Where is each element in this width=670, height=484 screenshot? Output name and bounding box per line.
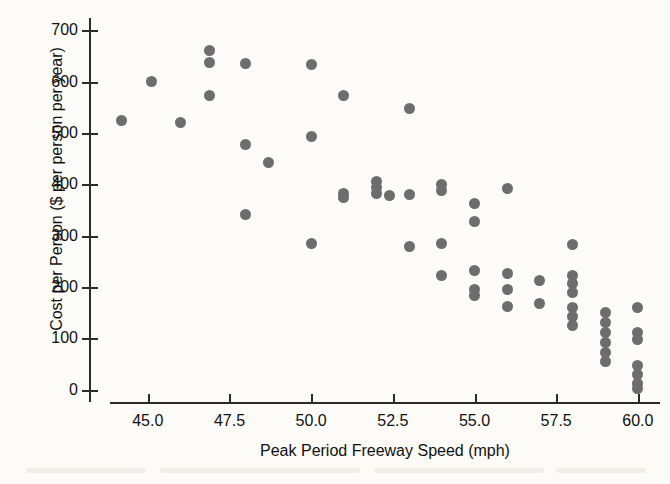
y-axis-title: Cost per Person ($ per person per year) (48, 19, 66, 359)
x-axis-tick-label: 60.0 (608, 412, 668, 430)
data-point (502, 183, 513, 194)
data-point (632, 302, 643, 313)
data-point (306, 238, 317, 249)
scan-artifact (374, 468, 544, 473)
data-point (469, 216, 480, 227)
y-axis-tick-label: 0 (24, 382, 78, 398)
data-point (567, 287, 578, 298)
data-point (306, 59, 317, 70)
data-point (404, 103, 415, 114)
data-point (404, 241, 415, 252)
data-point (204, 45, 215, 56)
data-point (384, 190, 395, 201)
data-point (567, 320, 578, 331)
x-axis-tick-label: 47.5 (199, 412, 259, 430)
data-point (204, 90, 215, 101)
data-point (175, 117, 186, 128)
x-axis-title: Peak Period Freeway Speed (mph) (110, 442, 660, 460)
data-point (338, 90, 349, 101)
data-point (404, 189, 415, 200)
x-axis-tick-label: 45.0 (118, 412, 178, 430)
data-point (502, 301, 513, 312)
scan-artifact (26, 468, 146, 473)
scatter-plot-figure: 0100200300400500600700 45.047.550.052.55… (0, 0, 670, 484)
scan-artifact (160, 468, 360, 473)
data-point (240, 139, 251, 150)
data-point (502, 268, 513, 279)
x-axis-tick-label: 50.0 (281, 412, 341, 430)
data-point (534, 298, 545, 309)
data-point (116, 115, 127, 126)
data-point (632, 334, 643, 345)
x-axis-line (110, 402, 660, 404)
data-point (240, 58, 251, 69)
data-point (338, 192, 349, 203)
data-point (204, 57, 215, 68)
data-point (502, 284, 513, 295)
scan-artifact (556, 468, 646, 473)
data-point (534, 275, 545, 286)
data-point (567, 239, 578, 250)
x-axis-tick-label: 55.0 (445, 412, 505, 430)
data-point (306, 131, 317, 142)
plot-area (89, 20, 664, 400)
data-point (436, 270, 447, 281)
data-point (632, 383, 643, 394)
data-point (436, 185, 447, 196)
data-point (371, 188, 382, 199)
data-point (469, 198, 480, 209)
data-point (600, 356, 611, 367)
data-point (240, 209, 251, 220)
data-point (436, 238, 447, 249)
data-point (469, 290, 480, 301)
data-point (469, 265, 480, 276)
x-axis-tick-label: 57.5 (526, 412, 586, 430)
data-point (263, 157, 274, 168)
data-point (146, 76, 157, 87)
x-axis-tick-label: 52.5 (363, 412, 423, 430)
